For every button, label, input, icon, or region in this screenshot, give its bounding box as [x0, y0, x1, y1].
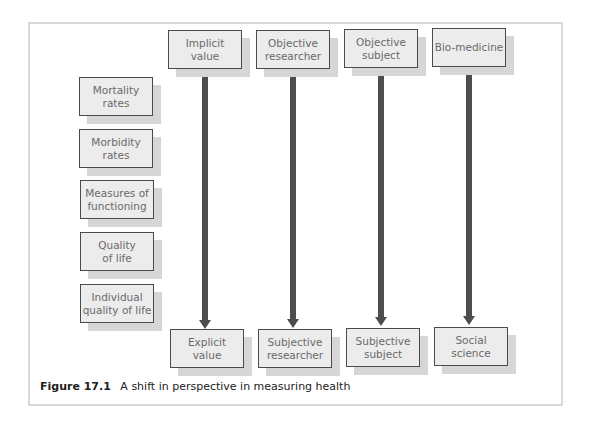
box-mortality-rates: Mortality rates	[79, 77, 153, 116]
box-individual-quality-of-life: Individual quality of life	[80, 284, 154, 323]
figure-caption: Figure 17.1 A shift in perspective in me…	[40, 380, 350, 393]
arrow-shaft	[378, 68, 384, 318]
box-morbidity-rates: Morbidity rates	[79, 129, 153, 168]
box-bio-medicine: Bio-medicine	[432, 28, 506, 67]
box-measures-of-functioning: Measures of functioning	[80, 180, 154, 219]
arrow-down-icon	[375, 317, 387, 326]
box-quality-of-life: Quality of life	[80, 232, 154, 271]
box-implicit-value: Implicit value	[168, 30, 242, 69]
figure-caption-text: A shift in perspective in measuring heal…	[120, 380, 350, 393]
box-subjective-researcher: Subjective researcher	[258, 329, 332, 368]
arrow-shaft	[290, 69, 296, 320]
figure-number: Figure 17.1	[40, 380, 111, 393]
arrow-down-icon	[463, 316, 475, 325]
arrow-down-icon	[287, 319, 299, 328]
box-objective-subject: Objective subject	[344, 29, 418, 68]
arrow-shaft	[466, 67, 472, 317]
box-explicit-value: Explicit value	[170, 329, 244, 368]
box-subjective-subject: Subjective subject	[346, 328, 420, 367]
arrow-shaft	[202, 69, 208, 321]
box-objective-researcher: Objective researcher	[256, 30, 330, 69]
arrow-down-icon	[199, 320, 211, 329]
box-social-science: Social science	[434, 327, 508, 366]
